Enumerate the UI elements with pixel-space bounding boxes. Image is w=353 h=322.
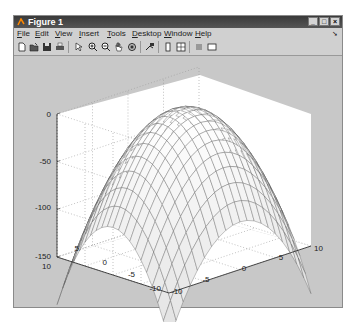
z-tick-label: 0: [47, 110, 52, 119]
y-tick-label: 10: [42, 262, 51, 271]
y-tick-label: -5: [128, 270, 136, 279]
x-tick-label: 10: [314, 244, 323, 253]
x-tick-label: -5: [202, 275, 210, 284]
y-tick-label: 5: [75, 244, 80, 253]
x-tick-label: 5: [279, 253, 284, 262]
figure-window: Figure 1 _ □ × File Edit View Insert Too…: [13, 15, 343, 308]
x-tick-label: 0: [242, 264, 247, 273]
y-tick-label: 0: [103, 258, 108, 267]
z-tick-label: -150: [35, 252, 52, 261]
surface-plot[interactable]: 0 -50 -100 -150 10 5 0 -5 -10 -10 -5 0 5…: [1, 1, 353, 322]
x-tick-label: -10: [171, 287, 183, 296]
z-tick-label: -50: [39, 157, 51, 166]
y-tick-label: -10: [149, 284, 161, 293]
plot-area: 0 -50 -100 -150 10 5 0 -5 -10 -10 -5 0 5…: [14, 56, 342, 307]
z-tick-label: -100: [35, 203, 52, 212]
